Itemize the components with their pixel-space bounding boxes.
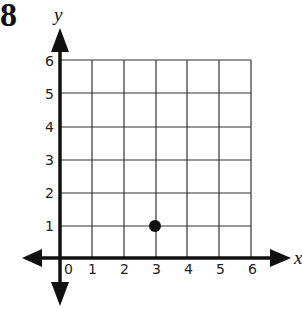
y-tick-5: 5 [45,86,54,102]
x-tick-4: 4 [184,261,193,277]
y-tick-4: 4 [45,119,54,135]
y-tick-2: 2 [45,185,54,201]
y-tick-3: 3 [45,152,54,168]
arrow-up-icon [51,28,69,52]
x-axis-label: x [293,247,302,268]
x-tick-3: 3 [152,261,161,277]
y-tick-labels: 1 2 3 4 5 6 [45,53,54,234]
y-tick-6: 6 [45,53,54,69]
x-tick-5: 5 [216,261,225,277]
x-tick-labels: 0 1 2 3 4 5 6 [64,261,257,277]
x-tick-1: 1 [88,261,97,277]
data-point [149,220,161,232]
x-tick-2: 2 [120,261,129,277]
arrow-left-icon [22,249,42,267]
arrow-down-icon [51,282,69,306]
arrow-right-icon [270,249,291,267]
x-tick-6: 6 [248,261,257,277]
x-tick-0: 0 [64,261,73,277]
y-axis-label: y [52,4,63,25]
y-tick-1: 1 [45,218,54,234]
coordinate-plane: y x 0 1 2 3 4 5 6 1 2 3 4 5 6 [0,0,302,313]
